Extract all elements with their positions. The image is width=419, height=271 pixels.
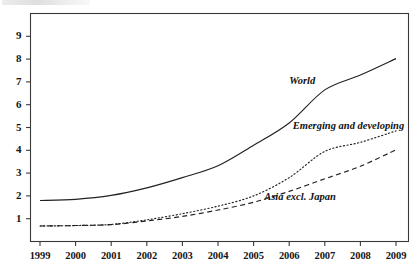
- x-axis-ticks: [40, 242, 396, 247]
- x-tick-label-2009: 2009: [376, 250, 416, 261]
- y-tick-label-2: 2: [6, 190, 22, 201]
- x-tick-label-2000: 2000: [56, 250, 96, 261]
- x-tick-label-2003: 2003: [162, 250, 202, 261]
- line-chart-plot: [0, 0, 419, 271]
- series-label-asia-excl-japan: Asia excl. Japan: [264, 191, 335, 202]
- y-tick-label-5: 5: [6, 122, 22, 133]
- y-tick-label-4: 4: [6, 144, 22, 155]
- y-tick-label-3: 3: [6, 167, 22, 178]
- x-tick-label-1999: 1999: [20, 250, 60, 261]
- x-tick-label-2008: 2008: [340, 250, 380, 261]
- x-tick-label-2006: 2006: [269, 250, 309, 261]
- series-line-2: [40, 150, 396, 226]
- y-tick-label-7: 7: [6, 76, 22, 87]
- x-tick-label-2004: 2004: [198, 250, 238, 261]
- series-label-world: World: [289, 75, 315, 86]
- x-tick-label-2005: 2005: [234, 250, 274, 261]
- series-line-1: [40, 131, 396, 226]
- chart-figure: 123456789 199920002001200220032004200520…: [0, 0, 419, 271]
- y-tick-label-1: 1: [6, 213, 22, 224]
- x-tick-label-2007: 2007: [305, 250, 345, 261]
- y-axis-ticks: [26, 36, 31, 218]
- series-label-emerging-and-developing: Emerging and developing: [293, 120, 404, 131]
- y-tick-label-6: 6: [6, 99, 22, 110]
- y-tick-label-9: 9: [6, 30, 22, 41]
- y-tick-label-8: 8: [6, 53, 22, 64]
- x-tick-label-2001: 2001: [91, 250, 131, 261]
- x-tick-label-2002: 2002: [127, 250, 167, 261]
